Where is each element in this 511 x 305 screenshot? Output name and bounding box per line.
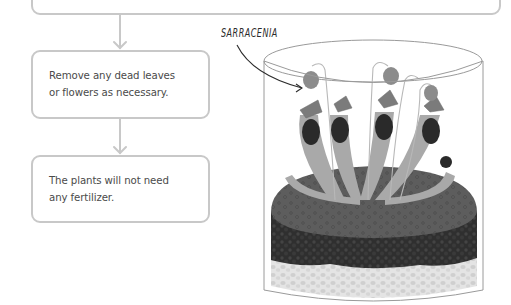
callout-arrow-icon [237, 45, 302, 88]
terrarium-illustration [0, 0, 511, 305]
flower-icons [303, 67, 438, 101]
